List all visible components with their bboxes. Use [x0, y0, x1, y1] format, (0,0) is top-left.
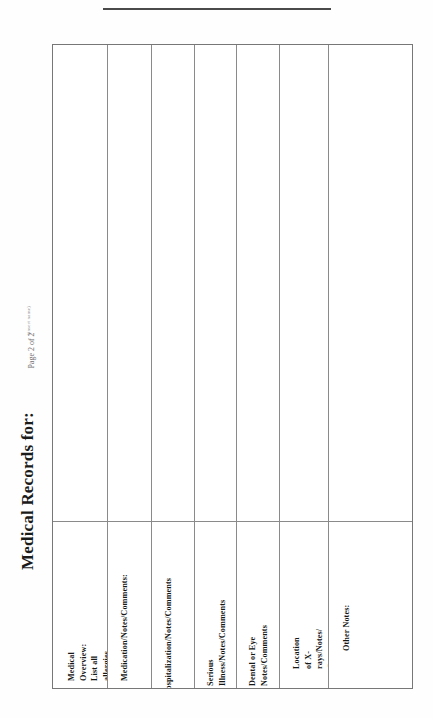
row-label-cell: Hospitalization/Notes/Comments [152, 521, 194, 688]
row-label: Other Notes: [341, 580, 353, 651]
medical-records-table: Medical Overview: List all allergies, dr… [52, 44, 413, 689]
write-in-area[interactable] [237, 45, 279, 521]
row-label: Location of X-rays/Notes/ Comments [291, 629, 330, 669]
row-label-cell: Medical Overview: List all allergies, dr… [53, 521, 107, 688]
row-label: Dental or Eye Notes/Comments [247, 625, 270, 686]
page-number-label: Page 2 of 2 [27, 316, 36, 386]
write-in-area[interactable] [152, 45, 194, 521]
write-in-area[interactable] [53, 45, 107, 521]
row-label-cell: Location of X-rays/Notes/ Comments [280, 521, 329, 688]
row-label-cell: Medication/Notes/Comments: [108, 521, 152, 688]
row-label-cell: Other Notes: [329, 521, 412, 688]
row-label: Serious Illness/Notes/Comments [205, 600, 228, 686]
table-row: Location of X-rays/Notes/ Comments [280, 45, 330, 688]
table-row: Medical Overview: List all allergies, dr… [53, 45, 108, 688]
table-row: Hospitalization/Notes/Comments [152, 45, 195, 688]
table-row: Other Notes: [329, 45, 412, 688]
row-label: Medication/Notes/Comments: [119, 574, 131, 681]
write-in-area[interactable] [195, 45, 236, 521]
scanned-form-page: Medical Records for: (insert name) Page … [0, 0, 433, 718]
table-row: Serious Illness/Notes/Comments [195, 45, 237, 688]
write-in-area[interactable] [108, 45, 152, 521]
row-label: Hospitalization/Notes/Comments [163, 578, 175, 688]
row-label-cell: Dental or Eye Notes/Comments [237, 521, 279, 688]
write-in-area[interactable] [329, 45, 412, 521]
write-in-area[interactable] [280, 45, 329, 521]
page-title: Medical Records for: [18, 370, 38, 570]
table-row: Dental or Eye Notes/Comments [237, 45, 280, 688]
row-label: Medical Overview: List all allergies, dr… [66, 636, 108, 681]
table-row: Medication/Notes/Comments: [108, 45, 153, 688]
row-label-cell: Serious Illness/Notes/Comments [195, 521, 236, 688]
name-write-in-rule [103, 8, 331, 10]
